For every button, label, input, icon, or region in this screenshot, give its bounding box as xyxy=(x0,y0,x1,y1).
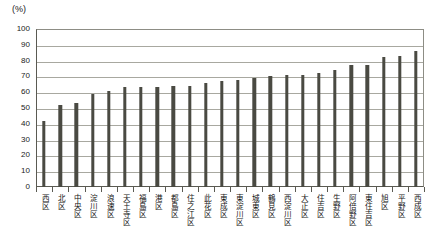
bar xyxy=(107,91,110,187)
x-axis-tick-label: 天王寺区 xyxy=(117,194,133,226)
bar-slot xyxy=(52,29,68,187)
x-axis-tick-label: 生野区 xyxy=(327,194,343,218)
x-axis-tick xyxy=(85,187,86,192)
bar-slot xyxy=(295,29,311,187)
y-axis-unit-label: (%) xyxy=(12,4,26,14)
x-axis-tick xyxy=(117,187,118,192)
bar-slot xyxy=(343,29,359,187)
bar-slot xyxy=(198,29,214,187)
bar-slot xyxy=(36,29,52,187)
y-axis-tick-label: 30 xyxy=(0,136,30,144)
x-axis-tick-label: 旭区 xyxy=(376,194,392,210)
bar xyxy=(269,76,272,187)
x-axis-tick xyxy=(311,187,312,192)
bar xyxy=(91,94,94,187)
x-axis-tick-label: 浪速区 xyxy=(101,194,117,218)
x-axis-tick xyxy=(246,187,247,192)
x-axis-tick-label: 東成区 xyxy=(214,194,230,218)
x-axis-tick-label: 東淀川区 xyxy=(230,194,246,226)
x-axis-tick xyxy=(262,187,263,192)
x-axis-tick xyxy=(295,187,296,192)
bar-slot xyxy=(359,29,375,187)
x-axis-tick-label: 東住吉区 xyxy=(359,194,375,226)
x-axis-tick xyxy=(133,187,134,192)
y-axis-tick-label: 70 xyxy=(0,72,30,80)
x-axis-tick xyxy=(149,187,150,192)
bar xyxy=(317,73,320,187)
y-axis-tick-label: 10 xyxy=(0,167,30,175)
x-axis-tick-label: 鶴見区 xyxy=(262,194,278,218)
x-axis-tick-label: 住吉区 xyxy=(311,194,327,218)
x-axis-tick-label: 大正区 xyxy=(295,194,311,218)
bar xyxy=(333,70,336,187)
x-axis-tick xyxy=(165,187,166,192)
x-axis-tick xyxy=(376,187,377,192)
x-axis-tick-label: 西淀川区 xyxy=(279,194,295,226)
x-axis-tick-label: 城東区 xyxy=(246,194,262,218)
x-axis-tick-label: 西区 xyxy=(36,194,52,210)
bar xyxy=(366,65,369,187)
x-axis-tick-labels: 西区北区中央区淀川区浪速区天王寺区福島区港区都島区住之江区此花区東成区東淀川区城… xyxy=(36,194,424,250)
bar xyxy=(204,83,207,187)
y-axis-tick-label: 60 xyxy=(0,88,30,96)
x-axis-tick xyxy=(101,187,102,192)
bar-slot xyxy=(133,29,149,187)
x-axis-tick xyxy=(359,187,360,192)
x-axis-tick-label: 阿倍野区 xyxy=(343,194,359,226)
x-axis-tick-label: 住之江区 xyxy=(182,194,198,226)
x-axis-tick-label: 西成区 xyxy=(408,194,424,218)
bar-slot xyxy=(311,29,327,187)
bar-slot xyxy=(149,29,165,187)
bar xyxy=(382,57,385,187)
bar-slot xyxy=(101,29,117,187)
x-axis-tick xyxy=(343,187,344,192)
bar-slot xyxy=(182,29,198,187)
x-axis-tick xyxy=(182,187,183,192)
x-axis-tick xyxy=(52,187,53,192)
bars-layer xyxy=(36,29,424,187)
bar xyxy=(42,121,45,187)
bar-chart: (%) 1009080706050403020100 西区北区中央区淀川区浪速区… xyxy=(0,0,437,251)
bar xyxy=(253,78,256,187)
x-axis-tick xyxy=(230,187,231,192)
x-axis-tick-label: 淀川区 xyxy=(85,194,101,218)
bar-slot xyxy=(214,29,230,187)
bar-slot xyxy=(68,29,84,187)
bar-slot xyxy=(246,29,262,187)
bar xyxy=(156,87,159,187)
bar-slot xyxy=(392,29,408,187)
bar-slot xyxy=(408,29,424,187)
bar xyxy=(398,56,401,187)
y-axis-tick-label: 90 xyxy=(0,41,30,49)
bar xyxy=(414,51,417,187)
x-axis-tick-label: 福島区 xyxy=(133,194,149,218)
x-axis-tick xyxy=(36,187,37,192)
x-axis-tick xyxy=(214,187,215,192)
bar-slot xyxy=(117,29,133,187)
bar xyxy=(123,87,126,187)
x-axis-tick xyxy=(424,187,425,192)
x-axis-tick xyxy=(392,187,393,192)
bar xyxy=(172,86,175,187)
x-axis-tick-label: 北区 xyxy=(52,194,68,210)
bar xyxy=(188,86,191,187)
bar-slot xyxy=(165,29,181,187)
bar-slot xyxy=(85,29,101,187)
x-axis-tick-label: 港区 xyxy=(149,194,165,210)
y-axis-tick-label: 100 xyxy=(0,25,30,33)
y-axis-tick-label: 20 xyxy=(0,151,30,159)
x-axis-tick-label: 平野区 xyxy=(392,194,408,218)
bar xyxy=(59,105,62,187)
bar-slot xyxy=(376,29,392,187)
x-axis-tick-label: 中央区 xyxy=(68,194,84,218)
bar-slot xyxy=(262,29,278,187)
x-axis-tick xyxy=(408,187,409,192)
x-axis-tick xyxy=(279,187,280,192)
bar-slot xyxy=(327,29,343,187)
y-axis-tick-label: 80 xyxy=(0,57,30,65)
bar xyxy=(75,103,78,187)
y-axis-tick-label: 0 xyxy=(0,183,30,191)
x-axis-tick xyxy=(198,187,199,192)
x-axis-tick xyxy=(327,187,328,192)
x-axis-tick xyxy=(68,187,69,192)
